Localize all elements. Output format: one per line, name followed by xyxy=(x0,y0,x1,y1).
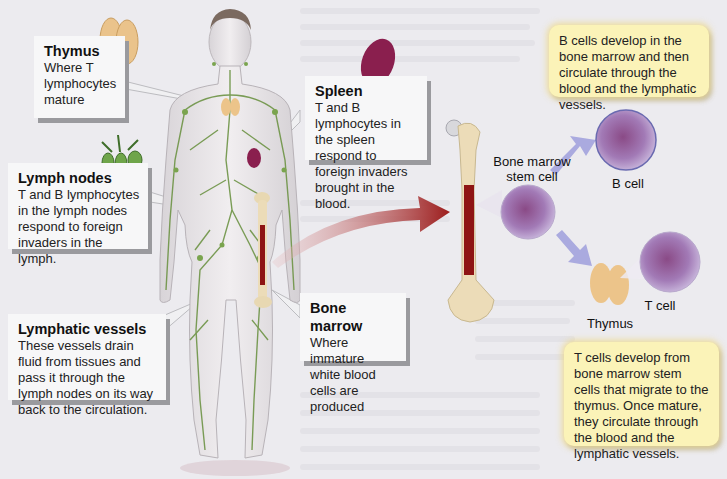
lymphatic-vessels-desc: These vessels drain fluid from tissues a… xyxy=(18,338,158,418)
stem-cell-label: Bone marrow stem cell xyxy=(492,154,572,184)
bone-marrow-desc: Where immature white blood cells are pro… xyxy=(310,335,398,415)
spleen-title: Spleen xyxy=(315,82,419,100)
bone-marrow-title: Bone marrow xyxy=(310,299,398,335)
thymus-title: Thymus xyxy=(44,42,117,60)
lymphatic-vessels-title: Lymphatic vessels xyxy=(18,320,158,338)
spleen-desc: T and B lymphocytes in the spleen respon… xyxy=(315,100,419,212)
b-cells-note: B cells develop in the bone marrow and t… xyxy=(549,25,709,97)
t-cell-label: T cell xyxy=(640,298,680,313)
b-cell-label: B cell xyxy=(608,176,648,191)
thymus-label: Thymus xyxy=(585,316,635,331)
thymus-callout: Thymus Where T lymphocytes mature xyxy=(34,36,125,118)
bone-marrow-callout: Bone marrow Where immature white blood c… xyxy=(300,293,406,361)
thymus-desc: Where T lymphocytes mature xyxy=(44,60,117,108)
lymph-nodes-desc: T and B lymphocytes in the lymph nodes r… xyxy=(18,187,140,267)
t-cells-note: T cells develop from bone marrow stem ce… xyxy=(564,342,719,446)
spleen-callout: Spleen T and B lymphocytes in the spleen… xyxy=(305,76,427,160)
lymph-nodes-title: Lymph nodes xyxy=(18,169,140,187)
lymph-nodes-callout: Lymph nodes T and B lymphocytes in the l… xyxy=(8,163,148,249)
lymphatic-vessels-callout: Lymphatic vessels These vessels drain fl… xyxy=(8,314,166,400)
